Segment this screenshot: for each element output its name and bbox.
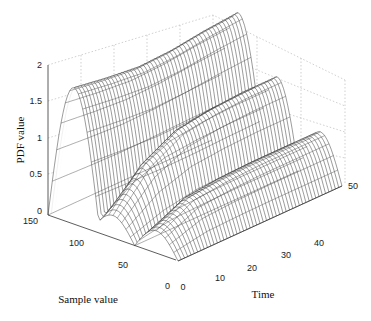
svg-text:0.5: 0.5 [29,169,42,179]
svg-text:30: 30 [281,250,291,260]
svg-text:2: 2 [37,60,42,70]
time-axis-label: Time [252,288,275,300]
svg-text:50: 50 [348,181,358,191]
surface-plot: 0 0.5 1 1.5 2 PDF value 150 100 50 0 Sam… [0,0,371,321]
svg-text:40: 40 [314,238,324,248]
svg-text:20: 20 [247,263,257,273]
sample-axis-label: Sample value [58,293,118,305]
surface-mesh [48,13,342,261]
svg-text:50: 50 [118,260,128,270]
z-axis-label: PDF value [14,117,26,164]
svg-text:100: 100 [69,238,84,248]
svg-text:1.5: 1.5 [29,96,42,106]
svg-text:10: 10 [215,273,225,283]
svg-text:0: 0 [180,282,185,292]
svg-text:150: 150 [23,216,38,226]
svg-text:1: 1 [37,133,42,143]
svg-text:0: 0 [165,281,170,291]
svg-text:0: 0 [37,206,42,216]
z-axis-ticks: 0 0.5 1 1.5 2 [29,60,42,216]
